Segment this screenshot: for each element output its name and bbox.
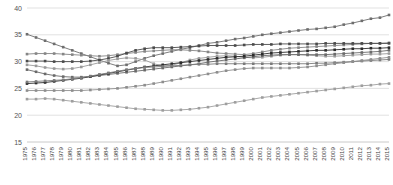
data-point-marker (306, 62, 309, 65)
data-point-marker (315, 45, 318, 48)
data-point-marker (315, 62, 318, 65)
data-point-marker (315, 49, 318, 52)
data-point-marker (234, 38, 237, 41)
data-point-marker (361, 84, 364, 87)
data-point-marker (379, 83, 382, 86)
data-point-marker (53, 67, 56, 70)
data-point-marker (207, 63, 210, 66)
x-tick-label: 2000 (247, 146, 254, 160)
x-tick-label: 2011 (347, 146, 354, 160)
data-point-marker (62, 99, 65, 102)
x-tick-label: 2007 (311, 146, 318, 160)
data-point-marker (53, 89, 56, 92)
data-point-marker (216, 44, 219, 47)
data-point-marker (71, 49, 74, 52)
data-point-marker (143, 66, 146, 69)
data-point-marker (342, 42, 345, 45)
data-point-marker (297, 66, 300, 69)
y-tick-label: 40 (14, 5, 22, 12)
data-point-marker (80, 54, 83, 57)
data-point-marker (171, 46, 174, 49)
data-point-marker (270, 49, 273, 52)
data-point-marker (342, 52, 345, 55)
data-point-marker (243, 37, 246, 40)
data-point-marker (207, 58, 210, 61)
data-point-marker (116, 65, 119, 68)
data-point-marker (243, 67, 246, 70)
data-point-marker (98, 59, 101, 62)
data-point-marker (26, 81, 29, 84)
data-point-marker (243, 55, 246, 58)
data-point-marker (152, 82, 155, 85)
data-point-marker (315, 28, 318, 31)
data-point-marker (379, 57, 382, 60)
data-point-marker (98, 73, 101, 76)
data-point-marker (388, 46, 391, 49)
x-tick-label: 2002 (265, 146, 272, 160)
data-point-marker (342, 87, 345, 90)
data-point-marker (71, 100, 74, 103)
x-tick-label: 1996 (211, 146, 218, 160)
data-point-marker (261, 67, 264, 70)
data-point-marker (324, 64, 327, 67)
data-point-marker (297, 62, 300, 65)
data-point-marker (306, 28, 309, 31)
data-point-marker (225, 44, 228, 47)
data-point-marker (315, 90, 318, 93)
data-point-marker (297, 53, 300, 56)
x-tick-label: 1994 (193, 146, 200, 160)
data-point-marker (180, 64, 183, 67)
data-point-marker (35, 80, 38, 83)
data-point-marker (134, 70, 137, 73)
data-point-marker (180, 61, 183, 64)
data-point-marker (53, 52, 56, 55)
data-point-marker (116, 70, 119, 73)
data-point-marker (198, 107, 201, 110)
data-point-marker (198, 74, 201, 77)
data-point-marker (270, 62, 273, 65)
data-point-marker (216, 57, 219, 60)
data-point-marker (89, 64, 92, 67)
data-point-marker (62, 60, 65, 63)
data-point-marker (198, 50, 201, 53)
data-point-marker (53, 98, 56, 101)
data-point-marker (125, 86, 128, 89)
data-point-marker (35, 36, 38, 39)
data-point-marker (107, 88, 110, 91)
data-point-marker (379, 16, 382, 19)
data-point-marker (261, 96, 264, 99)
data-point-marker (225, 59, 228, 62)
x-tick-label: 2005 (293, 146, 300, 160)
data-point-marker (225, 62, 228, 65)
data-point-marker (44, 89, 47, 92)
data-point-marker (270, 95, 273, 98)
x-tick-label: 1997 (220, 146, 227, 160)
data-point-marker (161, 46, 164, 49)
data-point-marker (388, 52, 391, 55)
data-point-marker (270, 67, 273, 70)
data-point-marker (26, 53, 29, 56)
data-point-marker (80, 76, 83, 79)
data-point-marker (297, 43, 300, 46)
x-tick-label: 1976 (30, 146, 37, 160)
data-point-marker (89, 60, 92, 63)
data-point-marker (89, 54, 92, 57)
data-point-marker (306, 66, 309, 69)
data-point-marker (189, 45, 192, 48)
data-point-marker (152, 66, 155, 69)
data-point-marker (333, 53, 336, 56)
data-point-marker (315, 53, 318, 56)
data-point-marker (125, 64, 128, 67)
data-point-marker (116, 58, 119, 61)
chart-container: 152025303540 197519761977197819791980198… (0, 0, 393, 185)
series-lines (26, 14, 391, 112)
data-point-marker (26, 33, 29, 36)
y-axis-tick-labels: 152025303540 (14, 5, 22, 146)
data-point-marker (252, 98, 255, 101)
x-tick-label: 1981 (75, 146, 82, 160)
data-point-marker (352, 42, 355, 45)
data-point-marker (388, 14, 391, 17)
x-tick-label: 2012 (356, 146, 363, 160)
data-point-marker (261, 53, 264, 56)
data-point-marker (80, 66, 83, 69)
